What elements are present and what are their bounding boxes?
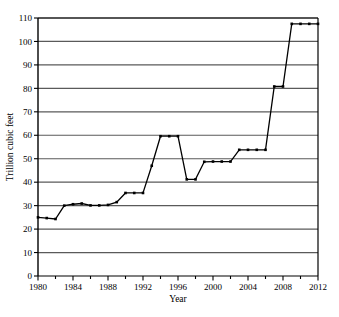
data-point-2010 xyxy=(299,23,302,26)
data-point-1984 xyxy=(72,203,75,206)
y-tick-label-90: 90 xyxy=(23,60,33,70)
data-point-1989 xyxy=(115,201,118,204)
data-point-1998 xyxy=(194,178,197,181)
y-tick-label-100: 100 xyxy=(19,37,33,47)
y-tick-label-40: 40 xyxy=(23,177,33,187)
y-axis-title: Trillion cubic feet xyxy=(5,113,15,182)
x-tick-label-2012: 2012 xyxy=(309,282,327,292)
data-point-2009 xyxy=(290,23,293,26)
data-point-2011 xyxy=(308,23,311,26)
x-tick-label-2000: 2000 xyxy=(204,282,223,292)
x-tick-label-1992: 1992 xyxy=(134,282,152,292)
data-point-1991 xyxy=(133,192,136,195)
data-point-1994 xyxy=(159,135,162,138)
data-point-1997 xyxy=(185,178,188,181)
data-point-1981 xyxy=(45,217,48,220)
y-tick-label-70: 70 xyxy=(23,107,33,117)
data-point-1983 xyxy=(63,204,66,207)
data-point-2000 xyxy=(212,160,215,163)
data-point-1992 xyxy=(142,192,145,195)
data-point-2008 xyxy=(282,85,285,88)
data-point-2002 xyxy=(229,160,232,163)
data-point-2003 xyxy=(238,149,241,152)
y-tick-label-50: 50 xyxy=(23,154,33,164)
data-point-1982 xyxy=(54,218,57,221)
data-point-1996 xyxy=(177,135,180,138)
x-tick-label-1988: 1988 xyxy=(99,282,118,292)
y-tick-label-110: 110 xyxy=(19,13,33,23)
x-tick-label-2008: 2008 xyxy=(274,282,293,292)
x-axis-title: Year xyxy=(169,294,187,304)
data-point-1986 xyxy=(89,204,92,207)
plot-background xyxy=(38,18,318,276)
x-tick-label-1980: 1980 xyxy=(29,282,48,292)
y-axis: 0102030405060708090100110 xyxy=(19,13,39,281)
y-tick-label-60: 60 xyxy=(23,130,33,140)
line-chart: 0102030405060708090100110 19801984198819… xyxy=(0,0,339,317)
data-point-2007 xyxy=(273,85,276,88)
data-point-1993 xyxy=(150,164,153,167)
data-point-2005 xyxy=(255,149,258,152)
data-point-1987 xyxy=(98,204,101,207)
data-point-1988 xyxy=(107,204,110,207)
data-point-2006 xyxy=(264,149,267,152)
data-point-2004 xyxy=(247,149,250,152)
y-tick-label-20: 20 xyxy=(23,224,33,234)
y-tick-label-10: 10 xyxy=(23,248,33,258)
chart-figure: 0102030405060708090100110 19801984198819… xyxy=(0,0,339,317)
data-point-2012 xyxy=(317,23,320,26)
x-tick-label-1996: 1996 xyxy=(169,282,188,292)
data-point-2001 xyxy=(220,160,223,163)
x-tick-label-2004: 2004 xyxy=(239,282,258,292)
data-point-1985 xyxy=(80,202,83,205)
data-point-1995 xyxy=(168,135,171,138)
x-axis: 198019841988199219962000200420082012 xyxy=(29,276,327,292)
y-tick-label-80: 80 xyxy=(23,84,33,94)
x-tick-label-1984: 1984 xyxy=(64,282,83,292)
y-tick-label-0: 0 xyxy=(28,271,33,281)
data-point-1980 xyxy=(37,216,40,219)
data-point-1999 xyxy=(203,160,206,163)
data-point-1990 xyxy=(124,192,127,195)
y-tick-label-30: 30 xyxy=(23,201,33,211)
